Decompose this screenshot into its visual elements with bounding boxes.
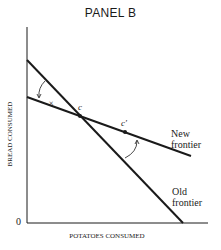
diagram	[0, 0, 221, 250]
origin-label: 0	[16, 216, 21, 227]
label-c-prime: c′	[121, 118, 127, 128]
x-axis-label: POTATOES CONSUMED	[27, 232, 187, 240]
y-axis-label: BREAD CONSUMED	[6, 84, 14, 184]
point-c	[78, 114, 82, 118]
rotation-arrow-left	[39, 81, 45, 97]
x-mark: ×	[48, 98, 54, 108]
new-frontier-label: Newfrontier	[171, 128, 201, 150]
old-frontier-line	[27, 60, 183, 223]
label-c: c	[78, 102, 82, 112]
point-c-prime	[123, 130, 127, 134]
old-frontier-label: Oldfrontier	[172, 186, 202, 208]
